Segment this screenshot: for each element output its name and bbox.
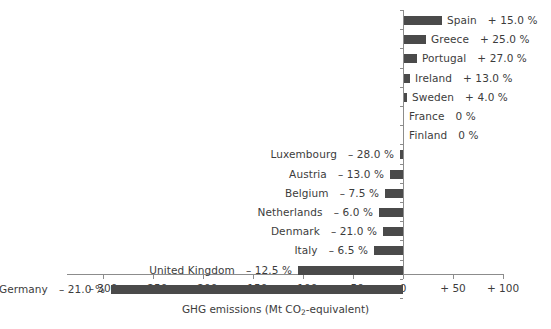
bar-row-label: Luxembourg– 28.0 % <box>270 148 394 161</box>
x-axis-title-post: -equivalent) <box>306 303 369 315</box>
percent-change-label: – 7.5 % <box>340 187 379 199</box>
bar-row-label: Sweden+ 4.0 % <box>412 91 508 104</box>
bar <box>385 189 403 198</box>
country-name: Portugal <box>422 52 466 64</box>
bar <box>379 208 403 217</box>
plot-area: – 300– 250– 200– 150– 100– 500+ 50+ 100 … <box>0 0 551 329</box>
percent-change-label: 0 % <box>456 110 476 122</box>
bar <box>390 170 403 179</box>
bar-row: Portugal+ 27.0 % <box>0 50 551 69</box>
x-axis-title-subscript: 2 <box>301 308 306 317</box>
percent-change-label: – 13.0 % <box>338 168 384 180</box>
bar-row-label: Netherlands– 6.0 % <box>258 206 373 219</box>
bar-row: Netherlands– 6.0 % <box>0 204 551 223</box>
percent-change-label: + 4.0 % <box>465 91 508 103</box>
percent-change-label: + 15.0 % <box>488 14 538 26</box>
bar <box>374 246 403 255</box>
bar <box>298 266 403 275</box>
percent-change-label: + 13.0 % <box>463 72 513 84</box>
country-name: Austria <box>289 168 327 180</box>
country-name: Italy <box>294 244 317 256</box>
country-name: France <box>409 110 445 122</box>
bar <box>404 93 407 102</box>
country-name: Sweden <box>412 91 454 103</box>
bar <box>404 35 426 44</box>
bar-row: Luxembourg– 28.0 % <box>0 146 551 165</box>
country-name: Finland <box>409 129 447 141</box>
bar-row: Sweden+ 4.0 % <box>0 89 551 108</box>
percent-change-label: 0 % <box>458 129 478 141</box>
bar-row-label: United Kingdom– 12.5 % <box>149 264 292 277</box>
bar-row: Ireland+ 13.0 % <box>0 70 551 89</box>
bar-row: United Kingdom– 12.5 % <box>0 262 551 281</box>
bar-row: Austria– 13.0 % <box>0 166 551 185</box>
bar <box>383 227 403 236</box>
bar-row-label: Belgium– 7.5 % <box>285 187 379 200</box>
bar-row-label: Austria– 13.0 % <box>289 168 384 181</box>
bar-row-label: Italy– 6.5 % <box>294 244 368 257</box>
percent-change-label: – 6.0 % <box>334 206 373 218</box>
x-axis-title-pre: GHG emissions (Mt CO <box>182 303 301 315</box>
country-name: Greece <box>431 33 469 45</box>
x-axis-title: GHG emissions (Mt CO2-equivalent) <box>0 303 551 315</box>
bar-row: Greece+ 25.0 % <box>0 31 551 50</box>
bar-row-label: Spain+ 15.0 % <box>447 14 537 27</box>
percent-change-label: – 28.0 % <box>348 148 394 160</box>
bar-row: Finland0 % <box>0 127 551 146</box>
bar-row-label: Portugal+ 27.0 % <box>422 52 527 65</box>
percent-change-label: + 27.0 % <box>477 52 527 64</box>
bar-row-label: France0 % <box>409 110 476 123</box>
bar <box>404 16 442 25</box>
percent-change-label: – 21.0 % <box>331 225 377 237</box>
y-tick-mark <box>400 10 403 11</box>
bar-row-label: Denmark– 21.0 % <box>271 225 377 238</box>
percent-change-label: – 12.5 % <box>246 264 292 276</box>
bar <box>404 74 410 83</box>
country-name: Ireland <box>415 72 452 84</box>
country-name: Luxembourg <box>270 148 336 160</box>
country-name: Germany <box>0 283 48 295</box>
bar-row: Germany– 21.0 % <box>0 281 551 300</box>
bar-row: Spain+ 15.0 % <box>0 12 551 31</box>
percent-change-label: – 6.5 % <box>329 244 368 256</box>
country-name: Belgium <box>285 187 329 199</box>
bar-row-label: Greece+ 25.0 % <box>431 33 530 46</box>
bar-row: Denmark– 21.0 % <box>0 223 551 242</box>
country-name: Netherlands <box>258 206 323 218</box>
bar-row: Belgium– 7.5 % <box>0 185 551 204</box>
bar <box>400 150 403 159</box>
ghg-emissions-bar-chart: – 300– 250– 200– 150– 100– 500+ 50+ 100 … <box>0 0 551 329</box>
country-name: United Kingdom <box>149 264 235 276</box>
bar-row: France0 % <box>0 108 551 127</box>
bar-row: Italy– 6.5 % <box>0 242 551 261</box>
bar-row-label: Finland0 % <box>409 129 479 142</box>
country-name: Spain <box>447 14 477 26</box>
percent-change-label: + 25.0 % <box>480 33 530 45</box>
bar-row-label: Germany– 21.0 % <box>0 283 105 296</box>
percent-change-label: – 21.0 % <box>59 283 105 295</box>
country-name: Denmark <box>271 225 320 237</box>
bar <box>404 54 417 63</box>
bar-row-label: Ireland+ 13.0 % <box>415 72 513 85</box>
bar <box>111 285 403 294</box>
